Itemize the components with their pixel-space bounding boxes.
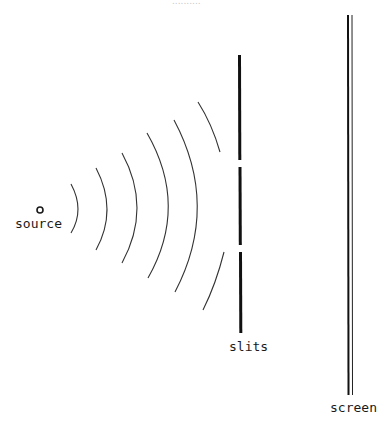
- wavefront-1: [71, 184, 78, 233]
- screen-label: screen: [330, 400, 377, 415]
- source-point-icon: [37, 207, 43, 213]
- double-slit-diagram: [0, 0, 389, 425]
- screen: [348, 15, 353, 395]
- screen-line-thin: [352, 15, 353, 395]
- wavefront-6-upper: [198, 102, 220, 152]
- slit-barrier: [240, 55, 241, 333]
- wavefront-5: [174, 120, 197, 292]
- wavefront-2: [96, 168, 107, 250]
- wavefronts: [71, 102, 224, 310]
- slits-label: slits: [229, 339, 268, 354]
- source-label: source: [15, 216, 62, 231]
- wavefront-4: [147, 133, 168, 278]
- screen-line-thick: [348, 15, 349, 395]
- wavefront-6-lower: [203, 252, 224, 310]
- wavefront-3: [122, 153, 137, 263]
